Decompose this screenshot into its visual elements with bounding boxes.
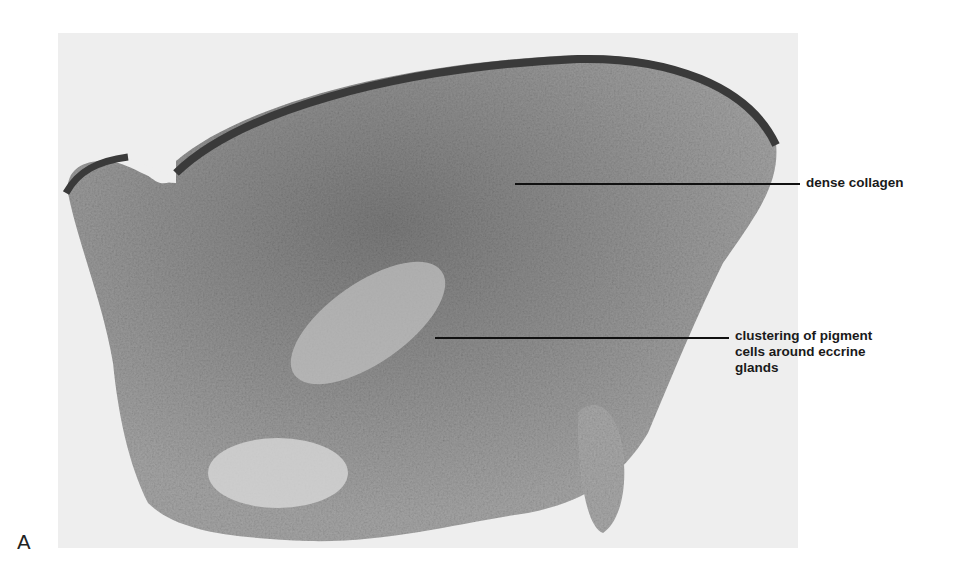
label-pigment-cells: clustering of pigment cells around eccri… xyxy=(735,328,872,376)
label-line-2: cells around eccrine xyxy=(735,344,872,360)
panel-letter: A xyxy=(17,530,31,554)
label-line-1: clustering of pigment xyxy=(735,328,872,344)
label-line-3: glands xyxy=(735,360,872,376)
histology-micrograph xyxy=(58,33,798,548)
label-dense-collagen: dense collagen xyxy=(806,175,904,191)
leader-line-dense-collagen xyxy=(515,183,800,185)
leader-line-pigment-cells xyxy=(435,337,729,339)
